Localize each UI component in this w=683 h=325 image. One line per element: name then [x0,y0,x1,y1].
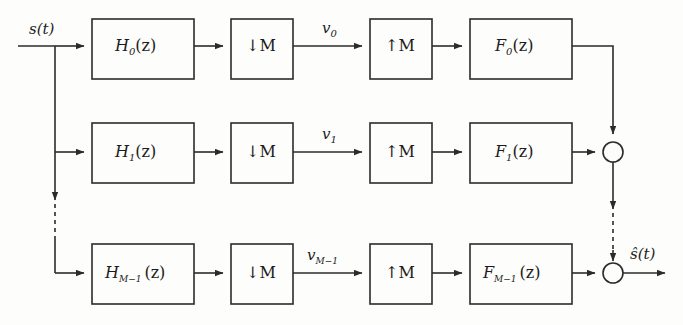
summing-junction-lower [603,263,623,283]
analysis-filter-0-label: H0(z) [115,38,156,54]
output-signal-label: ŝ(t) [630,247,655,262]
diagram-canvas [0,0,683,325]
upsampler-0-label: ↑M [385,38,415,54]
subband-signal-2-label: vM−1 [307,248,338,263]
synthesis-filter-0-label: F0(z) [495,38,533,54]
upsampler-2-label: ↑M [385,265,415,281]
subband-signal-0-label: v0 [322,21,337,36]
upsampler-1-label: ↑M [385,144,415,160]
subband-signal-1-label: v1 [322,127,337,142]
synthesis-filter-1-label: F1(z) [495,144,533,160]
downsampler-0-label: ↓M [246,38,276,54]
input-bus [18,46,55,273]
analysis-filter-1-label: H1(z) [115,144,156,160]
filter-bank-diagram: s(t) ŝ(t) H0(z) ↓M v0 ↑M F0(z) H1(z) ↓M … [0,0,683,325]
synthesis-filter-2-label: FM−1(z) [483,265,541,281]
downsampler-2-label: ↓M [246,265,276,281]
downsampler-1-label: ↓M [246,144,276,160]
analysis-filter-2-label: HM−1(z) [105,265,165,281]
input-signal-label: s(t) [29,22,54,37]
summing-junction-upper [603,142,623,162]
